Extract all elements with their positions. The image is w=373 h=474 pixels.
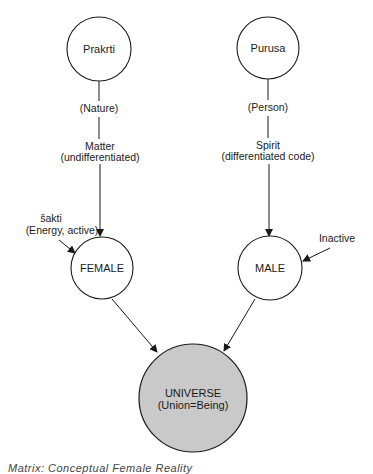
- sakti-to-female-arrow: [59, 240, 75, 253]
- prakrti-node: Prakrti: [67, 17, 131, 81]
- figure-caption: Matrix: Conceptual Female Reality: [8, 462, 193, 474]
- universe-label: UNIVERSE: [165, 387, 221, 399]
- universe-sublabel: (Union=Being): [158, 399, 229, 411]
- person-label: (Person): [248, 101, 288, 113]
- inactive-label: Inactive: [319, 232, 355, 244]
- female-label: FEMALE: [80, 262, 124, 274]
- spirit-sublabel: (differentiated code): [221, 150, 314, 162]
- male-to-universe-arrow: [224, 299, 255, 351]
- male-node: MALE: [238, 236, 302, 300]
- male-label: MALE: [255, 262, 285, 274]
- universe-node: UNIVERSE (Union=Being): [139, 344, 247, 452]
- female-to-universe-arrow: [112, 299, 157, 352]
- purusa-node: Purusa: [237, 17, 299, 79]
- inactive-to-male-arrow: [303, 248, 330, 261]
- matter-sublabel: (undifferentiated): [60, 151, 139, 163]
- sakti-label: šakti: [40, 212, 62, 224]
- prakrti-label: Prakrti: [83, 43, 115, 55]
- female-node: FEMALE: [71, 237, 133, 299]
- nature-label: (Nature): [80, 102, 119, 114]
- sakti-sublabel: (Energy, active): [26, 224, 99, 236]
- purusa-label: Purusa: [251, 42, 287, 54]
